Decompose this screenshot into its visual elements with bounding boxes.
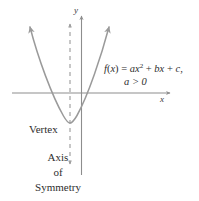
equation-plus-2: + xyxy=(167,63,173,74)
x-axis-label: x xyxy=(160,95,164,104)
equation-exponent: 2 xyxy=(140,62,144,70)
parabola-figure: y x f(x) = ax2 + bx + c, a > 0 Vertex Ax… xyxy=(0,0,199,201)
y-axis-label: y xyxy=(74,6,78,15)
equation-comma: , xyxy=(180,63,183,74)
equation-plus-1: + xyxy=(146,63,152,74)
vertex-label: Vertex xyxy=(29,124,58,135)
function-equation: f(x) = ax2 + bx + c, xyxy=(104,62,183,76)
axis-of-symmetry-line-3: Symmetry xyxy=(4,180,112,195)
equation-equals: = xyxy=(121,63,127,74)
axis-of-symmetry-label: Axis of Symmetry xyxy=(4,150,112,195)
equation-close-paren: ) xyxy=(115,63,119,74)
axis-of-symmetry-line-1: Axis xyxy=(4,150,112,165)
equation-bx: x xyxy=(160,63,165,74)
leading-coefficient-condition: a > 0 xyxy=(124,76,147,87)
axis-of-symmetry-line-2: of xyxy=(4,165,112,180)
